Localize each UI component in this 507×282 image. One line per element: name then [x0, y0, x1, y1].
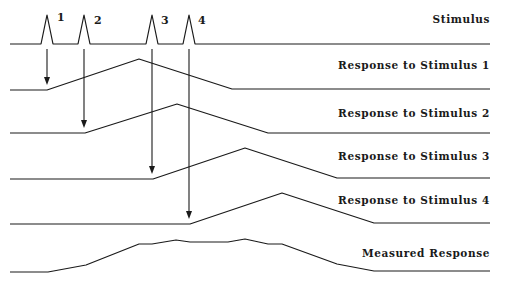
arrows-group: [44, 49, 192, 219]
response-2-label: Response to Stimulus 2: [338, 107, 490, 119]
arrow-down-icon: [186, 211, 192, 219]
measured-response-label: Measured Response: [362, 247, 490, 259]
arrow-down-icon: [81, 120, 87, 128]
traces-group: [10, 15, 490, 272]
stimulus-response-diagram: 1234 StimulusResponse to Stimulus 1Respo…: [0, 0, 507, 282]
arrow-down-icon: [149, 166, 155, 174]
response-3-label: Response to Stimulus 3: [338, 150, 490, 162]
arrow-down-icon: [44, 77, 50, 85]
response-1-label: Response to Stimulus 1: [338, 59, 490, 71]
arrow-stimulus-1: [44, 49, 50, 85]
pulse-label-1: 1: [57, 11, 65, 24]
pulse-label-4: 4: [198, 14, 206, 27]
arrow-stimulus-2: [81, 49, 87, 128]
pulse-label-3: 3: [161, 14, 169, 27]
response-4-label: Response to Stimulus 4: [338, 194, 490, 206]
pulse-labels-group: 1234: [57, 11, 206, 27]
trace-labels-group: StimulusResponse to Stimulus 1Response t…: [338, 13, 490, 259]
pulse-label-2: 2: [94, 14, 102, 27]
stimulus-trace: [10, 15, 490, 44]
stimulus-label: Stimulus: [433, 13, 491, 25]
